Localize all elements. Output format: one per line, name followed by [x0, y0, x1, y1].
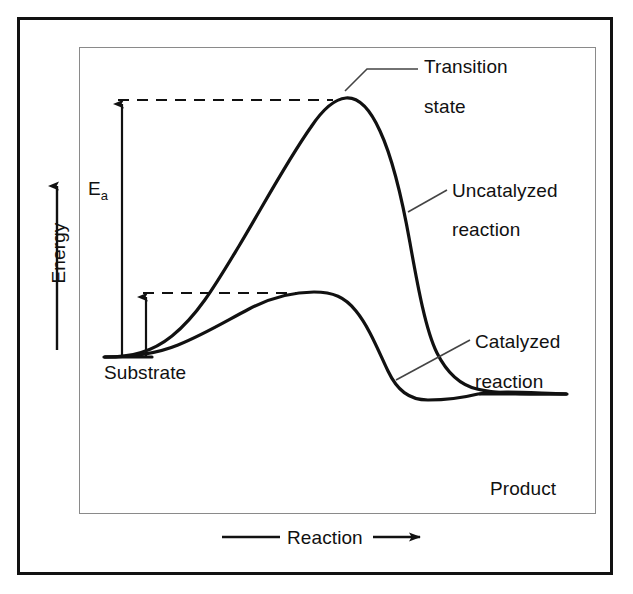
y-axis-label: Energy — [48, 193, 70, 313]
label-uncatalyzed-line2: reaction — [452, 219, 520, 241]
label-transition-state-line1: Transition — [424, 56, 508, 78]
leader-line-uncatalyzed — [408, 190, 447, 212]
label-catalyzed-line2: reaction — [475, 371, 543, 393]
leader-line-transition-state — [345, 69, 418, 91]
label-transition-state-line2: state — [424, 96, 466, 118]
activation-energy-symbol: E — [88, 178, 101, 199]
x-axis-label: Reaction — [287, 527, 363, 549]
label-substrate: Substrate — [104, 362, 186, 384]
label-product: Product — [490, 478, 556, 500]
energy-diagram-figure: Transition state Uncatalyzed reaction Ca… — [0, 0, 633, 594]
label-activation-energy: Ea — [88, 178, 108, 203]
activation-energy-subscript: a — [101, 188, 108, 203]
label-uncatalyzed-line1: Uncatalyzed — [452, 180, 558, 202]
reaction-coordinate-chart — [0, 0, 633, 594]
label-catalyzed-line1: Catalyzed — [475, 331, 560, 353]
